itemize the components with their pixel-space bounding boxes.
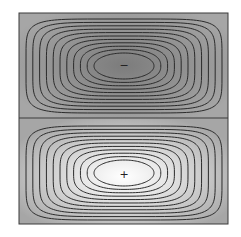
contour-figure: − + (0, 0, 241, 237)
plus-sign-label: + (119, 168, 128, 181)
minus-sign-label: − (119, 59, 128, 72)
